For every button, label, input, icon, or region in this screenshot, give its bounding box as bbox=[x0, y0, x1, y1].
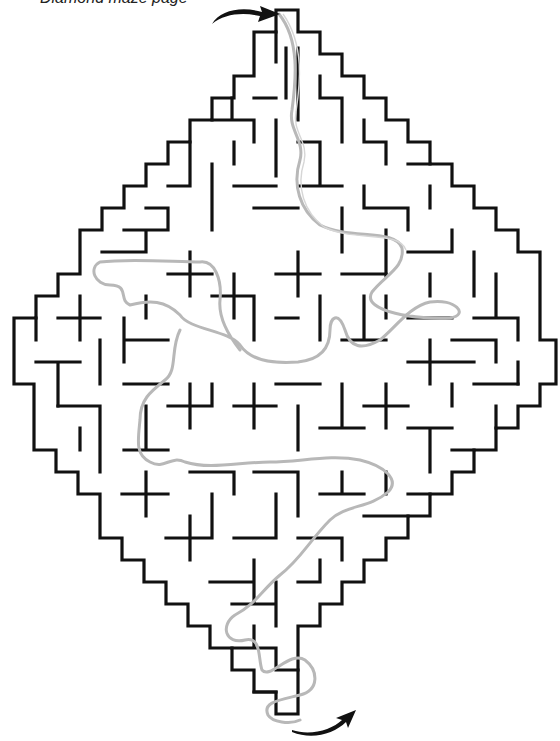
exit-arrow-icon bbox=[292, 710, 356, 736]
entry-arrow-icon bbox=[212, 6, 280, 24]
maze-board[interactable] bbox=[0, 0, 560, 741]
